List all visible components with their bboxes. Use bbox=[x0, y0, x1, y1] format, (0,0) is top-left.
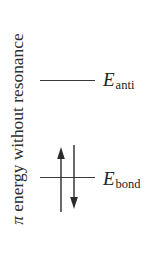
spin-up-arrow-icon bbox=[57, 147, 65, 212]
spin-down-arrow-icon bbox=[70, 145, 78, 209]
electron-arrows bbox=[0, 0, 147, 266]
